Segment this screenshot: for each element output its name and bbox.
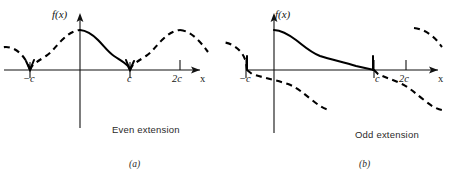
tick-label-minus-c-b: −c xyxy=(239,74,251,85)
y-axis-label-b: f(x) xyxy=(275,9,290,20)
tick-label-c-a: c xyxy=(127,74,132,85)
curve-dashed-tail-left-b xyxy=(225,43,247,71)
tick-label-minus-c-a: −c xyxy=(23,74,35,85)
tick-label-c-b: c xyxy=(375,74,380,85)
curve-dashed-tail-right-a xyxy=(180,30,208,52)
panel-letter-b: (b) xyxy=(359,159,370,169)
tick-label-2c-b: 2c xyxy=(399,74,409,85)
curve-solid-b xyxy=(274,30,374,70)
panel-caption-b: Odd extension xyxy=(355,129,419,140)
curve-solid-a xyxy=(80,30,130,70)
panel-letter-a: (a) xyxy=(129,159,140,169)
panel-caption-a: Even extension xyxy=(112,124,180,135)
x-axis-b xyxy=(248,67,438,74)
x-axis-label-b: x xyxy=(438,74,443,85)
curve-dashed-right-a xyxy=(130,30,180,70)
y-axis-label-a: f(x) xyxy=(52,9,67,20)
tick-label-2c-a: 2c xyxy=(172,74,182,85)
figure-footer-partial: FIG. 7-3 xyxy=(2,175,35,177)
curve-dashed-left-b xyxy=(247,70,330,110)
figure-panel-a: f(x) x −c c 2c Even extension (a) xyxy=(0,0,226,177)
figure-panel-b: f(x) x −c c 2c Odd extension (b) xyxy=(226,0,452,177)
plot-b xyxy=(226,0,452,148)
curve-dashed-tail-right-b xyxy=(414,28,442,47)
x-axis-label-a: x xyxy=(200,74,205,85)
curve-dashed-left-a xyxy=(30,30,80,70)
curve-dashed-tail-left-a xyxy=(2,47,30,70)
figure-sheet: f(x) x −c c 2c Even extension (a) xyxy=(0,0,452,177)
